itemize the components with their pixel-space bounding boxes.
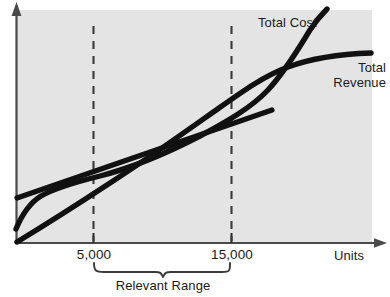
chart-figure: 5,000 15,000 Units Relevant Range Total … <box>0 0 390 297</box>
relevant-range-label: Relevant Range <box>98 279 228 293</box>
total-revenue-label-line2: Revenue <box>300 76 386 90</box>
x-axis-label: Units <box>318 249 380 263</box>
total-revenue-label-line1: Total <box>300 61 386 75</box>
total-cost-label: Total Cost <box>258 16 317 30</box>
x-tick-label-15000: 15,000 <box>191 248 273 262</box>
x-tick-label-5000: 5,000 <box>58 248 130 262</box>
relevant-range-brace <box>94 263 230 277</box>
